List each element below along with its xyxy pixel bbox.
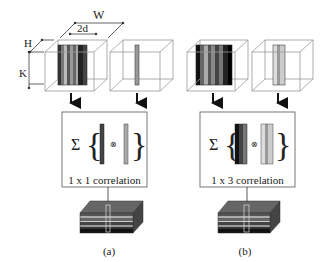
dimension-2d-label: 2d xyxy=(77,22,89,34)
panel-caption-a: (a) xyxy=(103,245,116,258)
panel-a: W 2d H K Σ { ⊗ } 1 x 1 correlation xyxy=(19,8,173,258)
feature-stripes-a xyxy=(58,45,87,85)
filter-bars-copy-b xyxy=(261,124,273,164)
filter-bars-b xyxy=(273,45,285,85)
output-slab-a xyxy=(80,201,143,233)
input-feature-cube-a xyxy=(45,40,107,91)
output-slab-b xyxy=(218,201,280,233)
dimension-w-label: W xyxy=(93,8,105,22)
input-feature-cube-b xyxy=(187,40,248,91)
panel-caption-b: (b) xyxy=(239,245,252,258)
correlation-label-a: 1 x 1 correlation xyxy=(68,174,141,186)
kernel-bar-a xyxy=(100,124,104,164)
dimension-h-label: H xyxy=(24,37,32,49)
feature-stripes-b xyxy=(196,45,232,85)
kernel-bars-b xyxy=(235,124,247,164)
right-brace-b: } xyxy=(275,126,291,163)
panel-b: Σ { ⊗ } 1 x 3 correlation (b) xyxy=(187,40,313,258)
right-brace-a: } xyxy=(131,126,147,163)
correlation-label-b: 1 x 3 correlation xyxy=(211,174,284,186)
dimension-k-label: K xyxy=(19,67,27,79)
correlation-operator-icon: ⊗ xyxy=(110,140,117,149)
filter-cube-a xyxy=(110,40,173,91)
correlation-operator-icon: ⊗ xyxy=(251,140,258,149)
filter-bar-copy-a xyxy=(124,124,128,164)
filter-bar-a xyxy=(135,45,139,85)
filter-cube-b xyxy=(252,40,313,91)
sum-symbol-b: Σ xyxy=(209,136,218,153)
correlation-diagram: W 2d H K Σ { ⊗ } 1 x 1 correlation xyxy=(0,0,330,262)
sum-symbol-a: Σ xyxy=(71,136,80,153)
